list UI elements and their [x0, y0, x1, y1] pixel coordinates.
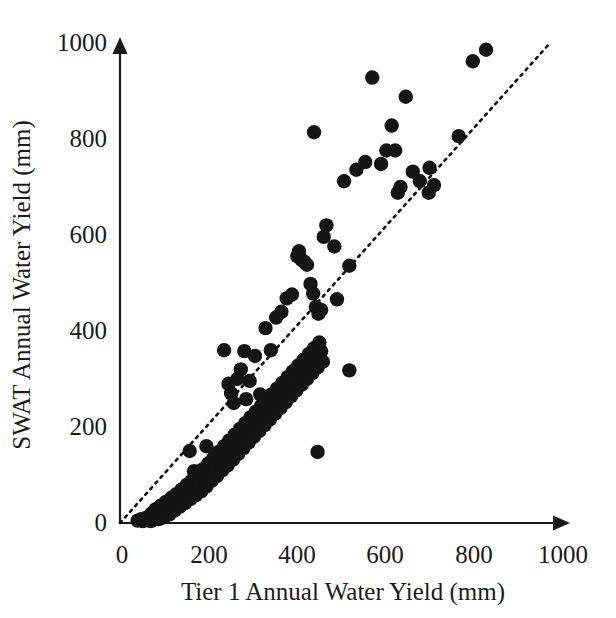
data-point — [253, 387, 267, 401]
data-point — [242, 374, 256, 388]
x-tick-label-400: 400 — [278, 541, 316, 568]
data-point — [358, 155, 372, 169]
data-point — [413, 174, 427, 188]
data-point — [337, 174, 351, 188]
data-point — [422, 161, 436, 175]
data-point — [330, 292, 344, 306]
data-point — [342, 363, 356, 377]
data-point — [479, 43, 493, 57]
data-point — [388, 143, 402, 157]
scatter-plot-figure: 0 200 400 600 800 1000 0 200 400 600 800… — [0, 0, 616, 618]
data-point — [300, 258, 314, 272]
data-point — [342, 259, 356, 273]
axes-group — [113, 37, 571, 531]
data-point — [316, 355, 330, 369]
data-point — [306, 286, 320, 300]
data-point — [239, 392, 253, 406]
y-tick-label-0: 0 — [95, 509, 108, 536]
data-point — [314, 303, 328, 317]
data-points-group — [130, 43, 493, 529]
data-point — [199, 439, 213, 453]
data-point — [258, 321, 272, 335]
data-point — [264, 343, 278, 357]
data-point — [399, 90, 413, 104]
data-point — [310, 445, 324, 459]
data-point — [365, 70, 379, 84]
data-point — [237, 344, 251, 358]
x-tick-label-200: 200 — [190, 541, 228, 568]
x-tick-labels: 0 200 400 600 800 1000 — [116, 541, 588, 568]
y-tick-label-400: 400 — [70, 317, 108, 344]
y-axis-title: SWAT Annual Water Yield (mm) — [8, 120, 36, 449]
x-tick-label-600: 600 — [366, 541, 404, 568]
data-point — [466, 54, 480, 68]
data-point — [285, 287, 299, 301]
data-point — [234, 362, 248, 376]
data-point — [217, 343, 231, 357]
data-point — [319, 218, 333, 232]
data-point — [393, 180, 407, 194]
data-point — [182, 444, 196, 458]
x-tick-label-1000: 1000 — [538, 541, 588, 568]
data-point — [187, 464, 201, 478]
y-tick-label-200: 200 — [70, 413, 108, 440]
data-point — [384, 118, 398, 132]
data-point — [451, 129, 465, 143]
y-tick-label-800: 800 — [70, 125, 108, 152]
x-tick-label-0: 0 — [116, 541, 129, 568]
y-tick-label-1000: 1000 — [57, 29, 107, 56]
data-point — [327, 239, 341, 253]
x-axis-title: Tier 1 Annual Water Yield (mm) — [181, 578, 505, 606]
data-point — [374, 157, 388, 171]
data-point — [274, 305, 288, 319]
data-point — [422, 186, 436, 200]
x-tick-label-800: 800 — [455, 541, 493, 568]
plot-canvas: 0 200 400 600 800 1000 0 200 400 600 800… — [0, 0, 616, 618]
data-point — [307, 125, 321, 139]
x-axis-arrowhead — [553, 516, 570, 531]
data-point — [227, 396, 241, 410]
y-tick-labels: 0 200 400 600 800 1000 — [57, 29, 107, 536]
y-tick-label-600: 600 — [70, 221, 108, 248]
y-axis-arrowhead — [113, 37, 128, 54]
